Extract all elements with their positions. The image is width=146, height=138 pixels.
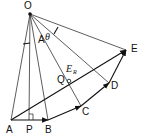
point-O-dot bbox=[28, 12, 32, 16]
vector-CD bbox=[81, 83, 109, 106]
point-Q-circle bbox=[67, 79, 71, 83]
phasor-diagram: O E A P B C D Q A θ E R bbox=[0, 0, 146, 138]
vector-resultant-AE bbox=[11, 50, 126, 120]
label-A: A bbox=[6, 124, 13, 135]
label-C: C bbox=[82, 106, 89, 117]
label-B: B bbox=[45, 124, 52, 135]
label-resultant-subscript: R bbox=[72, 69, 77, 75]
vector-BC bbox=[48, 106, 81, 120]
label-angle-A: A bbox=[38, 34, 45, 45]
diagram-canvas: O E A P B C D Q A θ E R bbox=[0, 0, 146, 138]
right-angle-marker bbox=[29, 114, 33, 120]
line-OP bbox=[29, 14, 30, 120]
angle-A-marker bbox=[23, 43, 30, 44]
line-OA bbox=[11, 14, 30, 120]
label-O: O bbox=[24, 0, 32, 11]
label-theta: θ bbox=[45, 31, 50, 42]
label-resultant: E bbox=[65, 63, 72, 74]
angle-theta-marker bbox=[54, 27, 58, 34]
label-Q: Q bbox=[57, 74, 65, 85]
label-D: D bbox=[111, 80, 118, 91]
label-P: P bbox=[26, 124, 33, 135]
label-E: E bbox=[131, 43, 138, 54]
